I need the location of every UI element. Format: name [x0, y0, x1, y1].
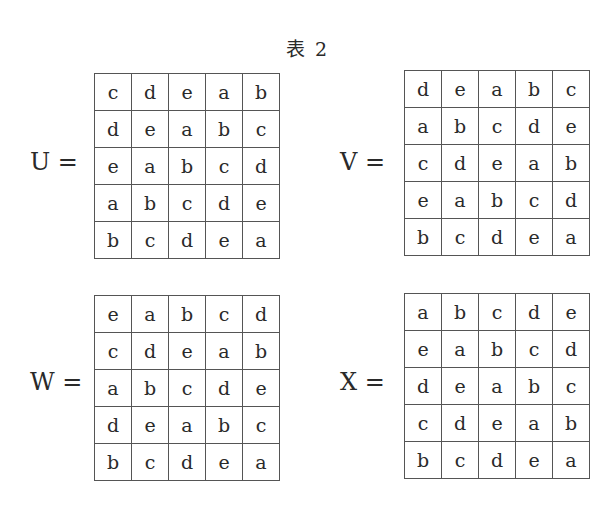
- matrix-cell: b: [243, 333, 280, 370]
- matrix-cell: c: [405, 145, 442, 182]
- matrix-cell: d: [206, 185, 243, 222]
- matrix-cell: c: [442, 219, 479, 256]
- matrix-cell: e: [553, 108, 590, 145]
- matrix-cell: a: [169, 407, 206, 444]
- matrix-cell: d: [132, 74, 169, 111]
- matrix-cell: e: [405, 331, 442, 368]
- matrix-cell: a: [479, 368, 516, 405]
- matrix-cell: a: [132, 296, 169, 333]
- matrix-cell: b: [405, 219, 442, 256]
- matrix-cell: a: [95, 185, 132, 222]
- matrix-row: bcdea: [95, 222, 280, 259]
- matrix-cell: d: [516, 108, 553, 145]
- matrix-cell: b: [169, 296, 206, 333]
- matrix-cell: c: [516, 182, 553, 219]
- matrix-cell: b: [442, 108, 479, 145]
- matrix-row: eabcd: [95, 148, 280, 185]
- matrix-cell: a: [442, 182, 479, 219]
- matrix-cell: d: [243, 296, 280, 333]
- matrix-cell: c: [243, 407, 280, 444]
- matrix-v: deabcabcdecdeabeabcdbcdea: [404, 70, 590, 256]
- matrix-cell: a: [169, 111, 206, 148]
- matrix-cell: b: [405, 442, 442, 479]
- matrix-row: abcde: [95, 185, 280, 222]
- matrix-row: deabc: [95, 407, 280, 444]
- matrix-cell: a: [479, 71, 516, 108]
- matrix-row: abcde: [405, 294, 590, 331]
- matrix-cell: e: [479, 145, 516, 182]
- matrix-cell: a: [206, 74, 243, 111]
- matrix-cell: b: [206, 111, 243, 148]
- matrix-row: abcde: [95, 370, 280, 407]
- matrix-row: eabcd: [405, 182, 590, 219]
- matrix-cell: c: [553, 368, 590, 405]
- matrix-cell: e: [132, 111, 169, 148]
- matrix-row: cdeab: [405, 145, 590, 182]
- matrix-row: abcde: [405, 108, 590, 145]
- matrix-cell: a: [516, 405, 553, 442]
- matrix-cell: e: [95, 148, 132, 185]
- matrix-cell: d: [405, 368, 442, 405]
- matrix-row: bcdea: [405, 219, 590, 256]
- matrix-cell: e: [442, 368, 479, 405]
- matrix-cell: b: [553, 145, 590, 182]
- matrix-cell: c: [479, 108, 516, 145]
- matrix-row: cdeab: [95, 333, 280, 370]
- matrix-x: abcdeeabcddeabccdeabbcdea: [404, 293, 590, 479]
- matrix-cell: b: [95, 222, 132, 259]
- matrix-cell: c: [243, 111, 280, 148]
- matrix-row: eabcd: [95, 296, 280, 333]
- matrix-cell: a: [132, 148, 169, 185]
- matrix-cell: c: [169, 370, 206, 407]
- matrix-row: cdeab: [405, 405, 590, 442]
- matrix-label-x: X =: [340, 368, 385, 396]
- matrix-cell: d: [553, 331, 590, 368]
- matrix-cell: a: [95, 370, 132, 407]
- matrix-cell: e: [442, 71, 479, 108]
- matrix-cell: c: [169, 185, 206, 222]
- matrix-cell: b: [95, 444, 132, 481]
- matrix-row: deabc: [405, 71, 590, 108]
- matrix-cell: c: [442, 442, 479, 479]
- matrix-cell: b: [132, 370, 169, 407]
- matrix-row: eabcd: [405, 331, 590, 368]
- matrix-label-w: W =: [30, 368, 82, 396]
- matrix-cell: a: [553, 219, 590, 256]
- matrix-cell: c: [479, 294, 516, 331]
- matrix-cell: b: [479, 331, 516, 368]
- matrix-cell: c: [553, 71, 590, 108]
- matrix-cell: e: [243, 370, 280, 407]
- matrix-u: cdeabdeabceabcdabcdebcdea: [94, 73, 280, 259]
- matrix-cell: c: [95, 333, 132, 370]
- matrix-cell: e: [516, 442, 553, 479]
- matrix-cell: e: [516, 219, 553, 256]
- matrix-row: bcdea: [95, 444, 280, 481]
- matrix-cell: c: [95, 74, 132, 111]
- matrix-cell: d: [243, 148, 280, 185]
- matrix-cell: b: [442, 294, 479, 331]
- matrix-cell: c: [132, 444, 169, 481]
- matrix-label-v: V =: [340, 148, 385, 176]
- matrix-cell: e: [206, 444, 243, 481]
- matrix-cell: b: [169, 148, 206, 185]
- matrix-cell: e: [243, 185, 280, 222]
- matrix-cell: e: [169, 74, 206, 111]
- matrix-cell: d: [442, 145, 479, 182]
- matrix-label-u: U =: [30, 148, 78, 176]
- matrix-cell: e: [95, 296, 132, 333]
- matrix-cell: c: [206, 296, 243, 333]
- matrix-row: cdeab: [95, 74, 280, 111]
- table-title: 表 2: [0, 34, 615, 61]
- matrix-cell: d: [169, 222, 206, 259]
- matrix-cell: a: [206, 333, 243, 370]
- matrix-cell: d: [479, 442, 516, 479]
- matrix-cell: d: [516, 294, 553, 331]
- matrix-cell: d: [553, 182, 590, 219]
- matrix-row: deabc: [405, 368, 590, 405]
- matrix-cell: d: [95, 111, 132, 148]
- matrix-row: bcdea: [405, 442, 590, 479]
- matrix-cell: b: [132, 185, 169, 222]
- matrix-cell: d: [95, 407, 132, 444]
- matrix-cell: b: [206, 407, 243, 444]
- matrix-cell: b: [516, 71, 553, 108]
